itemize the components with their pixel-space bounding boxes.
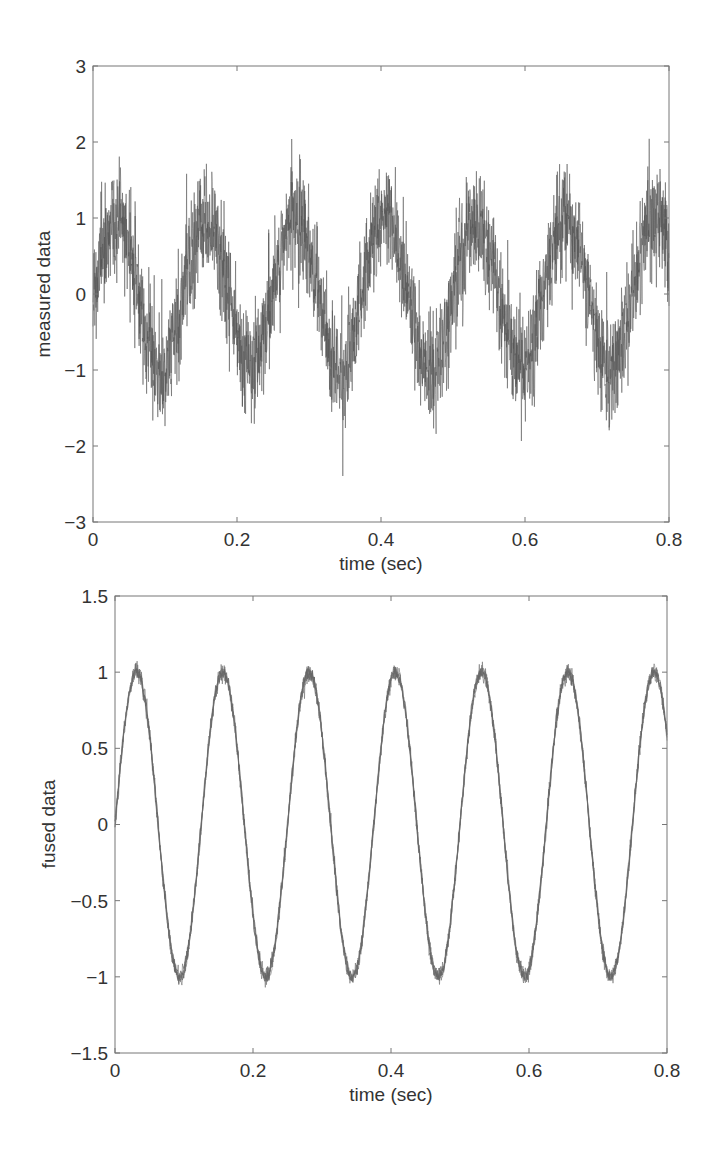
bottom-xtick-label: 0 — [110, 1060, 121, 1081]
top-x-axis-label: time (sec) — [339, 553, 422, 574]
bottom-xtick-label: 0.4 — [378, 1060, 405, 1081]
bottom-axes-frame — [115, 596, 667, 1053]
top-xtick-label: 0.4 — [368, 529, 395, 550]
bottom-xtick-label: 0.8 — [654, 1060, 680, 1081]
top-ytick-label: −2 — [64, 436, 86, 457]
data-line — [115, 664, 667, 988]
fused-data-series — [115, 661, 667, 987]
top-ytick-label: 0 — [75, 284, 86, 305]
top-xtick-label: 0.2 — [224, 529, 250, 550]
bottom-ytick-label: −1.5 — [70, 1043, 108, 1064]
top-ytick-label: 2 — [75, 132, 86, 153]
top-xtick-label: 0.6 — [512, 529, 538, 550]
data-line — [115, 664, 667, 983]
bottom-ytick-label: 0 — [97, 814, 108, 835]
bottom-ytick-label: 1.5 — [82, 586, 108, 607]
measured-data-series — [93, 139, 669, 476]
data-line — [93, 139, 669, 476]
bottom-y-axis-label: fused data — [38, 779, 59, 868]
measured-data-plot: 3 2 1 0 −1 −2 −3 0 0.2 0.4 0.6 0.8 time … — [0, 0, 717, 580]
bottom-xtick-label: 0.2 — [240, 1060, 266, 1081]
bottom-xtick-label: 0.6 — [516, 1060, 542, 1081]
bottom-axis-ticks — [115, 596, 667, 1053]
top-ytick-label: −1 — [64, 360, 86, 381]
data-line — [115, 666, 667, 982]
top-xtick-label: 0 — [88, 529, 99, 550]
top-chart-panel: 3 2 1 0 −1 −2 −3 0 0.2 0.4 0.6 0.8 time … — [0, 0, 717, 580]
top-axis-ticks — [93, 66, 669, 522]
top-ytick-label: −3 — [64, 512, 86, 533]
top-ytick-label: 3 — [75, 56, 86, 77]
top-y-axis-label: measured data — [33, 230, 54, 357]
bottom-ytick-label: −1 — [86, 967, 108, 988]
bottom-ytick-label: −0.5 — [70, 891, 108, 912]
top-axes-frame — [93, 66, 669, 522]
data-line — [115, 662, 667, 984]
data-line — [115, 663, 667, 985]
top-xtick-label: 0.8 — [656, 529, 682, 550]
top-ytick-label: 1 — [75, 208, 86, 229]
bottom-ytick-label: 1 — [97, 662, 108, 683]
bottom-x-axis-label: time (sec) — [349, 1084, 432, 1105]
data-line — [115, 661, 667, 985]
bottom-ytick-label: 0.5 — [82, 738, 108, 759]
